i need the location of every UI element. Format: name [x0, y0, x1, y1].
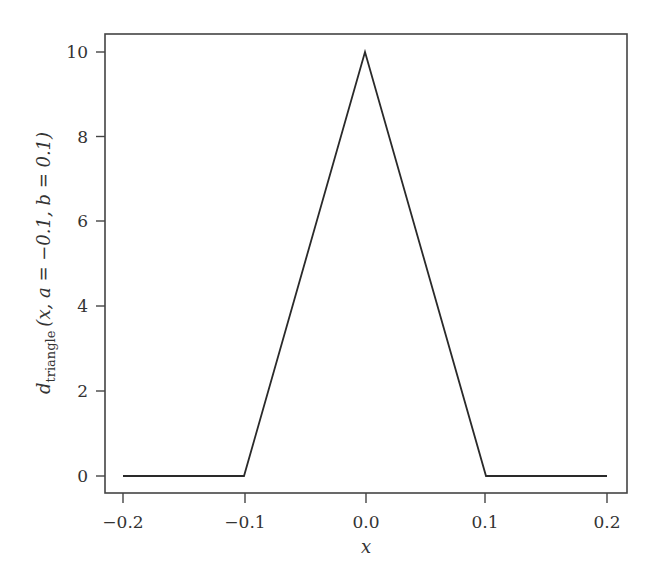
y-label-main: d: [33, 383, 54, 395]
x-axis: −0.2 −0.1 0.0 0.1 0.2: [102, 493, 620, 532]
x-tick-label: 0.1: [471, 512, 498, 532]
x-tick-label: 0.0: [352, 512, 379, 532]
plot-frame: [105, 34, 627, 493]
x-tick-label: −0.2: [102, 512, 143, 532]
y-tick-label: 2: [77, 381, 88, 401]
y-tick-label: 4: [77, 296, 88, 316]
y-label-subscript: triangle: [43, 330, 58, 382]
x-tick-label: −0.1: [224, 512, 265, 532]
y-tick-label: 6: [77, 211, 88, 231]
x-axis-label: x: [361, 536, 371, 557]
y-tick-label: 8: [77, 127, 88, 147]
y-tick-label: 0: [77, 466, 88, 486]
y-axis: 0 2 4 6 8 10: [66, 42, 105, 486]
svg-text:dtriangle(x, a = −0.1, b = 0.1: dtriangle(x, a = −0.1, b = 0.1): [33, 132, 58, 394]
y-label-args: (x, a = −0.1, b = 0.1): [33, 132, 54, 327]
y-tick-label: 10: [66, 42, 88, 62]
triangle-density-line: [123, 52, 607, 476]
x-tick-label: 0.2: [593, 512, 620, 532]
y-axis-label: dtriangle(x, a = −0.1, b = 0.1): [33, 132, 58, 394]
triangle-density-chart: 0 2 4 6 8 10 −0.2 −0.1 0.0 0.1 0.2 x dtr…: [0, 0, 661, 578]
